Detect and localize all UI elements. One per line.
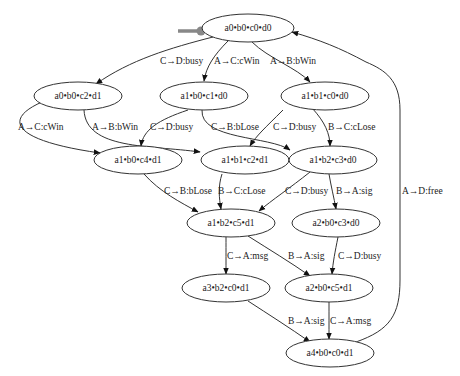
edge-s0-s1: C→D:busy: [96, 37, 213, 84]
edge-s9-s11: B→A:sig: [248, 301, 325, 342]
state-node-s5[interactable]: a1•b1•c2•d1: [201, 146, 289, 174]
svg-text:a1•b1•c2•d1: a1•b1•c2•d1: [222, 155, 269, 165]
svg-text:a1•b2•c3•d0: a1•b2•c3•d0: [310, 155, 357, 165]
state-node-s6[interactable]: a1•b2•c3•d0: [289, 146, 377, 174]
state-node-s2[interactable]: a1•b0•c1•d0: [160, 82, 248, 110]
svg-text:a0•b0•c0•d0: a0•b0•c0•d0: [225, 23, 272, 33]
svg-text:B→A:sig: B→A:sig: [336, 186, 373, 196]
state-node-s0[interactable]: a0•b0•c0•d0: [202, 14, 294, 42]
svg-text:a2•b0•c5•d1: a2•b0•c5•d1: [306, 283, 353, 293]
svg-text:A→B:bWin: A→B:bWin: [92, 122, 138, 132]
edge-s2-s4: C→D:busy: [141, 110, 194, 146]
svg-text:a1•b0•c1•d0: a1•b0•c1•d0: [181, 91, 228, 101]
svg-text:a0•b0•c2•d1: a0•b0•c2•d1: [55, 91, 102, 101]
svg-text:A→D:free: A→D:free: [402, 186, 443, 196]
svg-text:C→A:msg: C→A:msg: [227, 251, 268, 261]
svg-text:B→C:cLose: B→C:cLose: [218, 186, 266, 196]
start-marker-icon: [178, 27, 206, 36]
svg-text:C→B:bLose: C→B:bLose: [164, 186, 212, 196]
edge-s10-s11: C→A:msg: [329, 302, 371, 339]
state-node-s9[interactable]: a3•b2•c0•d1: [182, 274, 270, 302]
svg-text:A→C:cWin: A→C:cWin: [18, 122, 64, 132]
svg-text:A→C:cWin: A→C:cWin: [214, 56, 260, 66]
edge-s7-s9: C→A:msg: [226, 237, 268, 274]
edge-s3-s6: B→C:cLose: [312, 108, 376, 146]
svg-text:a3•b2•c0•d1: a3•b2•c0•d1: [203, 283, 250, 293]
state-node-s11[interactable]: a4•b0•c0•d1: [286, 339, 374, 367]
svg-text:B→A:sig: B→A:sig: [288, 316, 325, 326]
svg-text:C→D:busy: C→D:busy: [150, 122, 194, 132]
svg-text:C→D:busy: C→D:busy: [273, 122, 317, 132]
svg-text:C→D:busy: C→D:busy: [160, 56, 204, 66]
svg-text:B→C:cLose: B→C:cLose: [328, 122, 376, 132]
state-diagram: C→D:busy A→C:cWin A→B:bWin A→C:cWin A→B:…: [0, 0, 460, 376]
svg-text:C→B:bLose: C→B:bLose: [211, 122, 259, 132]
svg-text:a1•b0•c4•d1: a1•b0•c4•d1: [115, 155, 162, 165]
svg-text:B→A:sig: B→A:sig: [288, 251, 325, 261]
edge-s8-s10: C→D:busy: [332, 237, 382, 274]
state-node-s7[interactable]: a1•b2•c5•d1: [187, 209, 275, 237]
edge-s6-s7: C→D:busy: [259, 172, 329, 211]
svg-text:C→D:busy: C→D:busy: [285, 186, 329, 196]
edge-s0-s2: A→C:cWin: [204, 41, 260, 81]
edge-s5-s7: B→C:cLose: [218, 174, 266, 209]
state-node-s10[interactable]: a2•b0•c5•d1: [285, 274, 373, 302]
svg-text:a4•b0•c0•d1: a4•b0•c0•d1: [307, 348, 354, 358]
edge-s6-s8: B→A:sig: [329, 174, 373, 209]
state-node-s8[interactable]: a2•b0•c3•d0: [292, 209, 380, 237]
state-node-s4[interactable]: a1•b0•c4•d1: [94, 146, 182, 174]
svg-text:a2•b0•c3•d0: a2•b0•c3•d0: [313, 218, 360, 228]
svg-text:a1•b2•c5•d1: a1•b2•c5•d1: [208, 218, 255, 228]
svg-text:C→D:busy: C→D:busy: [338, 251, 382, 261]
svg-text:a1•b1•c0•d0: a1•b1•c0•d0: [302, 91, 349, 101]
state-node-s3[interactable]: a1•b1•c0•d0: [281, 82, 369, 110]
svg-text:C→A:msg: C→A:msg: [330, 316, 371, 326]
svg-text:A→B:bWin: A→B:bWin: [270, 56, 316, 66]
state-node-s1[interactable]: a0•b0•c2•d1: [34, 82, 122, 110]
edge-s0-s3: A→B:bWin: [252, 42, 316, 82]
edge-s4-s7: C→B:bLose: [144, 174, 212, 212]
